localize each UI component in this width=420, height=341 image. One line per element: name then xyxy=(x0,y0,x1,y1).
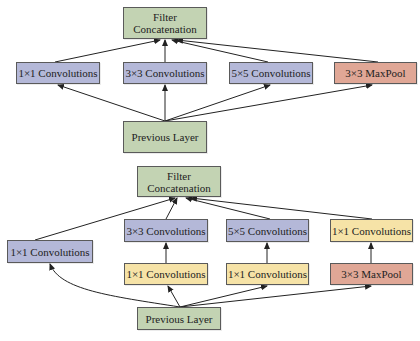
maxpool-3x3-node: 3×3 MaxPool xyxy=(334,62,417,84)
filter-concatenation-node: Filter Concatenation xyxy=(123,7,207,39)
edge-conv5-to-filter xyxy=(186,198,270,219)
edge-conv1b-to-filter xyxy=(191,198,372,219)
edge-prev-to-reduce3 xyxy=(168,286,180,307)
edge-conv3-to-filter xyxy=(166,198,177,219)
edge-conv5-to-filter xyxy=(172,40,268,62)
previous-layer-node: Previous Layer xyxy=(123,121,207,153)
conv-1x1-after-pool-node: 1×1 Convolutions xyxy=(330,219,413,242)
previous-layer-node: Previous Layer xyxy=(137,307,221,330)
conv-1x1-node: 1×1 Convolutions xyxy=(7,240,93,263)
edge-prev-to-conv5 xyxy=(165,85,270,121)
reduce-1x1-for-3x3-node: 1×1 Convolutions xyxy=(124,263,208,285)
reduce-1x1-for-5x5-node: 1×1 Convolutions xyxy=(226,263,309,285)
maxpool-3x3-node: 3×3 MaxPool xyxy=(330,263,413,285)
edge-prev-to-conv1 xyxy=(58,85,165,121)
conv-3x3-node: 3×3 Convolutions xyxy=(124,219,208,242)
edge-conv1-to-filter xyxy=(55,40,160,62)
conv-3x3-node: 3×3 Convolutions xyxy=(123,62,207,84)
edge-prev-to-reduce5 xyxy=(180,286,267,307)
conv-1x1-node: 1×1 Convolutions xyxy=(16,62,100,84)
edge-prev-to-pool xyxy=(165,85,372,121)
edge-pool-to-filter xyxy=(177,40,378,62)
conv-5x5-node: 5×5 Convolutions xyxy=(226,219,309,242)
filter-concatenation-node: Filter Concatenation xyxy=(137,166,221,197)
edge-prev-to-pool xyxy=(180,286,371,307)
conv-5x5-node: 5×5 Convolutions xyxy=(229,62,313,84)
